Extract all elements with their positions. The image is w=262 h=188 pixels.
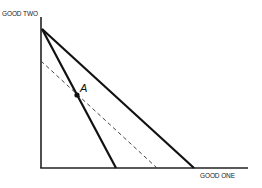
point-a-marker bbox=[74, 92, 79, 97]
diagram-canvas bbox=[0, 0, 262, 188]
budget-constraint-diagram: GOOD TWO GOOD ONE A bbox=[0, 0, 262, 188]
dashed-compensated-line bbox=[41, 61, 157, 168]
x-axis-label: GOOD ONE bbox=[200, 172, 235, 179]
y-axis-label: GOOD TWO bbox=[2, 10, 38, 17]
point-a-label: A bbox=[80, 82, 87, 94]
outer-budget-line bbox=[42, 29, 194, 168]
steep-budget-line bbox=[42, 29, 116, 168]
